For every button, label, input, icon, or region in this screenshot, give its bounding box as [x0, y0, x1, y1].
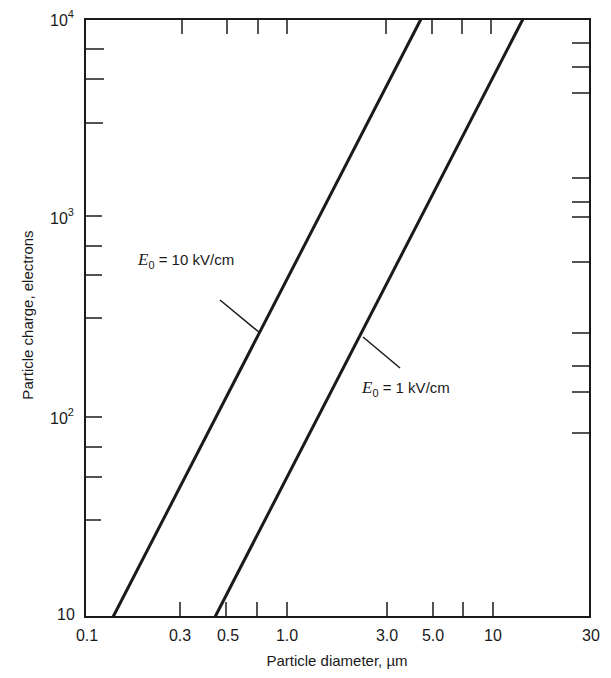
x-tick-label-0.1: 0.1	[76, 627, 98, 644]
series-label-10kv-value: = 10 kV/cm	[155, 251, 235, 268]
y-axis-right-ticks	[572, 43, 590, 433]
y-tick-label-10e4: 104	[50, 8, 74, 29]
x-axis-title: Particle diameter, µm	[266, 652, 407, 669]
series-line-1kv	[215, 19, 523, 617]
series-label-10kv: E0 = 10 kV/cm	[137, 250, 234, 271]
x-axis-bottom-ticks	[180, 602, 493, 617]
y-tick-label-10e3: 103	[50, 206, 74, 227]
x-tick-label-30: 30	[582, 627, 600, 644]
x-tick-label-5.0: 5.0	[422, 627, 444, 644]
leader-line-10kv	[220, 300, 260, 333]
x-tick-label-1.0: 1.0	[276, 627, 298, 644]
x-tick-label-0.5: 0.5	[217, 627, 239, 644]
series-label-10kv-symbol: E	[137, 250, 149, 269]
series-line-10kv	[113, 19, 421, 617]
series-label-1kv: E0 = 1 kV/cm	[361, 378, 450, 399]
y-axis-left-ticks	[85, 49, 104, 520]
x-tick-label-3.0: 3.0	[376, 627, 398, 644]
leader-line-1kv	[363, 337, 400, 368]
chart: E0 = 10 kV/cm E0 = 1 kV/cm 104 103 102 1…	[0, 0, 611, 678]
series-label-1kv-value: = 1 kV/cm	[379, 379, 450, 396]
x-tick-label-0.3: 0.3	[169, 627, 191, 644]
y-axis-title: Particle charge, electrons	[19, 230, 36, 399]
y-tick-label-10e2: 102	[50, 406, 74, 427]
x-axis-top-ticks	[182, 19, 491, 34]
series-label-1kv-symbol: E	[361, 378, 373, 397]
y-tick-label-10: 10	[57, 606, 75, 623]
x-tick-label-10: 10	[484, 627, 502, 644]
